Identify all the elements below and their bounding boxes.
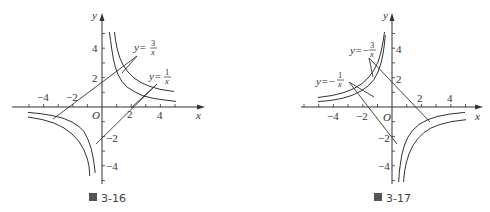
x-axis-label: x — [474, 110, 480, 122]
svg-text:x: x — [337, 79, 342, 89]
y-tick-label: 4 — [92, 42, 98, 54]
svg-text:y=: y= — [133, 41, 146, 53]
figure-3-17: −4 −2 2 4 4 2 −2 −4 O x y y=− 3 x y=− 1 … — [301, 9, 483, 205]
y-tick-label: −4 — [378, 160, 390, 172]
figure-3-16: −4 −2 2 4 4 2 −2 −4 O x y y= 3 x y= 1 x — [12, 9, 205, 205]
y-tick-label: −4 — [106, 160, 118, 172]
y-tick-label: 2 — [92, 72, 98, 84]
y-tick-label: 2 — [396, 73, 402, 85]
figure-caption: 3-17 — [386, 192, 411, 205]
leader-line-y-1-over-x — [96, 84, 157, 144]
x-tick-label: −2 — [356, 110, 368, 122]
curve-y-neg1-over-x-q4 — [399, 112, 465, 182]
curve-y-1-over-x-q3 — [28, 112, 95, 173]
figure-caption-glyph-icon — [89, 193, 97, 201]
curve-y-neg3-over-x-q2 — [318, 32, 385, 98]
y-tick-label: −2 — [378, 132, 390, 144]
x-tick-label: −4 — [37, 91, 49, 103]
curve-y-neg3-over-x-q4 — [404, 120, 467, 182]
origin-label: O — [383, 111, 391, 123]
leader-line-y-neg3-over-x — [369, 58, 430, 122]
curve-y-3-over-x-q3 — [28, 117, 90, 176]
x-tick-label: 2 — [417, 92, 423, 104]
y-tick-label: 4 — [396, 43, 402, 55]
x-axis-label: x — [195, 109, 201, 121]
svg-text:y=: y= — [148, 70, 161, 82]
origin-label: O — [92, 109, 100, 121]
figure-canvas: −4 −2 2 4 4 2 −2 −4 O x y y= 3 x y= 1 x — [0, 0, 490, 212]
y-axis-arrow-icon — [390, 13, 395, 21]
x-tick-label: −4 — [327, 110, 339, 122]
series-label-y-neg3-over-x: y=− 3 x — [349, 40, 376, 59]
figure-caption: 3-16 — [101, 192, 126, 205]
x-tick-label: 2 — [127, 108, 133, 120]
svg-text:y=−: y=− — [315, 75, 336, 87]
x-axis-arrow-icon — [475, 105, 483, 110]
y-axis-arrow-icon — [100, 13, 105, 21]
x-tick-label: −2 — [66, 91, 78, 103]
figure-caption-glyph-icon — [374, 193, 382, 201]
y-axis-label: y — [382, 9, 388, 21]
series-label-y-1-over-x: y= 1 x — [148, 67, 171, 86]
x-tick-label: 4 — [447, 92, 453, 104]
svg-text:x: x — [369, 49, 374, 59]
y-tick-label: −2 — [106, 132, 118, 144]
series-label-y-neg1-over-x: y=− 1 x — [315, 70, 344, 89]
y-axis-label: y — [91, 9, 97, 21]
svg-text:x: x — [164, 76, 169, 86]
svg-text:y=−: y=− — [349, 44, 370, 56]
x-tick-label: 4 — [157, 109, 163, 121]
series-label-y-3-over-x: y= 3 x — [133, 38, 157, 57]
svg-text:x: x — [150, 47, 155, 57]
